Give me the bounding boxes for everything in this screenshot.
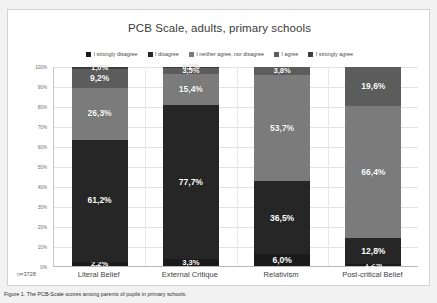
bar-column[interactable]: 2,2%61,2%26,3%9,2%1,0% bbox=[72, 67, 128, 266]
y-axis-tick-label: 0% bbox=[40, 265, 47, 270]
legend-swatch-icon bbox=[189, 52, 194, 57]
y-axis-tick-label: 10% bbox=[38, 245, 47, 250]
y-axis-tick-label: 80% bbox=[38, 105, 47, 110]
bar-segment-label: 1,0% bbox=[91, 64, 108, 72]
bar-segment[interactable]: 1,0% bbox=[72, 67, 128, 69]
y-axis-tick-label: 90% bbox=[38, 85, 47, 90]
legend-swatch-icon bbox=[308, 52, 313, 57]
bar-segment[interactable]: 15,4% bbox=[163, 74, 219, 105]
bar-segment-label: 66,4% bbox=[361, 168, 385, 177]
y-axis-tick-label: 20% bbox=[38, 225, 47, 230]
chart-frame: PCB Scale, adults, primary schools I str… bbox=[7, 9, 430, 286]
x-axis: Literal BeliefExternal CritiqueRelativis… bbox=[53, 270, 418, 286]
gridline-vertical bbox=[237, 67, 238, 266]
legend-item-label: I strongly agree bbox=[316, 51, 353, 57]
y-axis: 0%10%20%30%40%50%60%70%80%90%100% bbox=[8, 67, 51, 267]
legend-item[interactable]: I disagree bbox=[148, 51, 179, 57]
bar-segment-label: 36,5% bbox=[270, 214, 294, 223]
legend-item[interactable]: I strongly agree bbox=[308, 51, 353, 57]
bar-segment[interactable]: 3,3% bbox=[163, 259, 219, 266]
y-axis-tick-label: 40% bbox=[38, 185, 47, 190]
chart-legend: I strongly disagreeI disagreeI neither a… bbox=[8, 51, 430, 57]
legend-swatch-icon bbox=[86, 52, 91, 57]
legend-swatch-icon bbox=[274, 52, 279, 57]
legend-item-label: I agree bbox=[282, 51, 299, 57]
figure-container: PCB Scale, adults, primary schools I str… bbox=[0, 0, 437, 303]
legend-item[interactable]: I strongly disagree bbox=[86, 51, 138, 57]
sample-size-label: n=3728 bbox=[17, 271, 36, 277]
bar-column[interactable]: 6,0%36,5%53,7%3,8% bbox=[254, 67, 310, 266]
y-axis-tick-label: 30% bbox=[38, 205, 47, 210]
bar-segment[interactable]: 53,7% bbox=[254, 75, 310, 182]
bar-segment[interactable]: 19,6% bbox=[345, 67, 401, 106]
bar-segment[interactable]: 2,2% bbox=[72, 262, 128, 266]
bar-segment-label: 26,3% bbox=[88, 109, 112, 118]
figure-caption: Figure 1. The PCB-Scale scores among par… bbox=[4, 291, 433, 297]
bar-segment-label: 19,6% bbox=[361, 82, 385, 91]
bar-segment-label: 53,7% bbox=[270, 124, 294, 133]
legend-item[interactable]: I neither agree, nor disagree bbox=[189, 51, 264, 57]
legend-item-label: I strongly disagree bbox=[94, 51, 138, 57]
legend-item-label: I disagree bbox=[155, 51, 179, 57]
gridline-vertical bbox=[145, 67, 146, 266]
bar-segment-label: 3,3% bbox=[182, 259, 199, 267]
legend-swatch-icon bbox=[148, 52, 153, 57]
bar-column[interactable]: 1,2%12,8%66,4%19,6% bbox=[345, 67, 401, 266]
bar-segment-label: 12,8% bbox=[361, 247, 385, 256]
bar-segment-label: 0,2% bbox=[182, 63, 199, 71]
bar-segment[interactable]: 3,8% bbox=[254, 67, 310, 75]
bar-segment[interactable]: 1,2% bbox=[345, 264, 401, 266]
bar-segment[interactable]: 26,3% bbox=[72, 88, 128, 140]
bar-segment[interactable]: 6,0% bbox=[254, 254, 310, 266]
y-axis-tick-label: 60% bbox=[38, 145, 47, 150]
gridline-vertical bbox=[328, 67, 329, 266]
y-axis-tick-label: 70% bbox=[38, 125, 47, 130]
bar-segment[interactable]: 66,4% bbox=[345, 106, 401, 238]
bar-segment-label: 77,7% bbox=[179, 178, 203, 187]
chart-title: PCB Scale, adults, primary schools bbox=[8, 22, 430, 34]
bar-segment[interactable]: 61,2% bbox=[72, 140, 128, 262]
bar-segment-label: 61,2% bbox=[88, 196, 112, 205]
legend-item[interactable]: I agree bbox=[274, 51, 298, 57]
y-axis-tick-label: 50% bbox=[38, 165, 47, 170]
plot-area: 2,2%61,2%26,3%9,2%1,0%3,3%77,7%15,4%3,5%… bbox=[53, 67, 418, 267]
bar-segment[interactable]: 12,8% bbox=[345, 238, 401, 263]
x-axis-category-label: Post-critical Belief bbox=[317, 270, 427, 279]
bar-column[interactable]: 3,3%77,7%15,4%3,5%0,2% bbox=[163, 67, 219, 266]
legend-item-label: I neither agree, nor disagree bbox=[196, 51, 264, 57]
bar-segment-label: 15,4% bbox=[179, 85, 203, 94]
bar-segment[interactable]: 77,7% bbox=[163, 105, 219, 259]
bar-segment-label: 3,8% bbox=[273, 67, 290, 75]
y-axis-tick-label: 100% bbox=[35, 65, 47, 70]
bar-segment-label: 6,0% bbox=[272, 256, 291, 265]
bar-segment[interactable]: 36,5% bbox=[254, 181, 310, 254]
bar-segment-label: 9,2% bbox=[90, 74, 109, 83]
